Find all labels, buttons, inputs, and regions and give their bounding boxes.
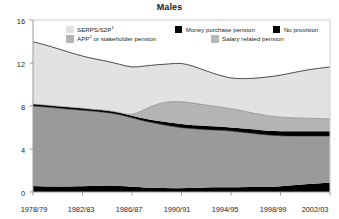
- y-tick-label-4: 4: [3, 146, 25, 155]
- chart-container: Males 16 12 8 4 0 1978/79 1982/83 1986/8…: [0, 0, 339, 219]
- x-tick-label-1982-83: 1982/83: [58, 205, 104, 214]
- x-tick-label-1998-99: 1998/99: [250, 205, 296, 214]
- x-tick-label-1990-91: 1990/91: [154, 205, 200, 214]
- x-tick-label-2002-03: 2002/03: [292, 205, 338, 214]
- x-tick-label-1986-87: 1986/87: [106, 205, 152, 214]
- area-chart-plot: [0, 0, 339, 219]
- y-tick-label-8: 8: [3, 103, 25, 112]
- y-tick-label-0: 0: [3, 189, 25, 198]
- x-tick-label-1978-79: 1978/79: [11, 205, 57, 214]
- x-tick-label-1994-95: 1994/95: [202, 205, 248, 214]
- y-tick-label-12: 12: [3, 60, 25, 69]
- y-tick-label-16: 16: [3, 17, 25, 26]
